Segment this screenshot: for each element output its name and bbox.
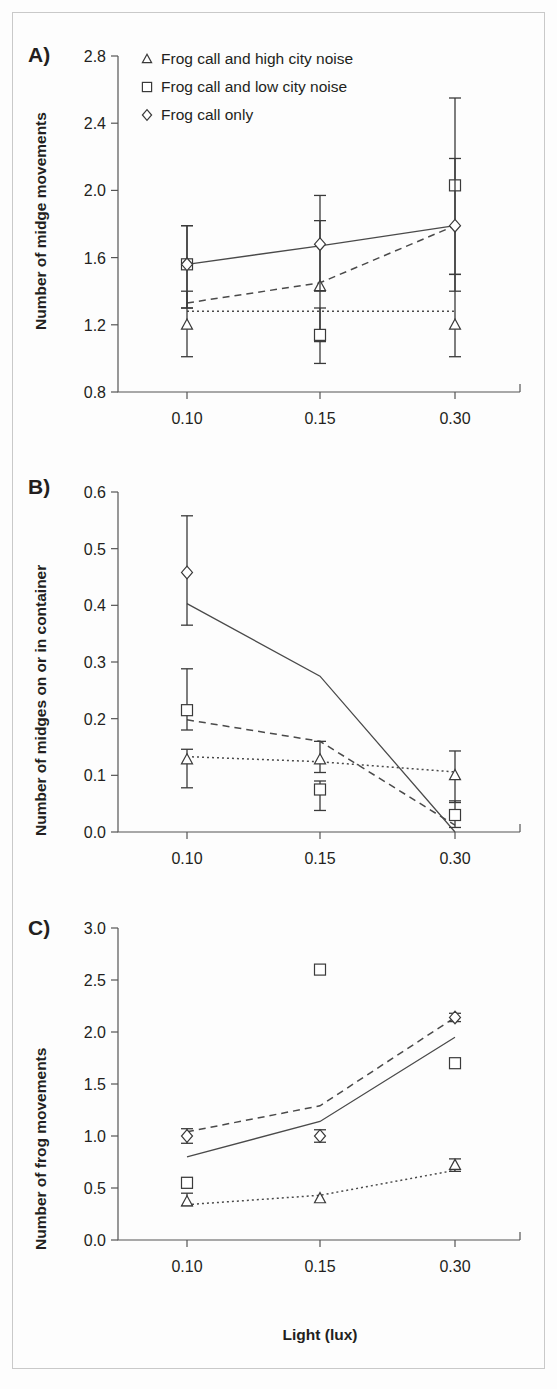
ytick-label: 0.2: [84, 711, 106, 728]
data-marker-triangle: [450, 770, 461, 780]
ytick-label: 0.6: [84, 484, 106, 501]
data-marker-square: [450, 1058, 461, 1069]
ytick-label: 0.4: [84, 597, 106, 614]
data-marker-triangle: [450, 1159, 461, 1169]
xtick-label: 0.15: [304, 410, 335, 427]
legend-marker-triangle: [142, 54, 151, 62]
xtick-label: 0.30: [439, 1258, 470, 1275]
panel-c-letter: C): [28, 916, 50, 939]
panel-c-axes: [111, 928, 520, 1247]
panel-a-letter: A): [28, 43, 50, 66]
xtick-label: 0.10: [171, 410, 202, 427]
panel-b-data-points: [181, 516, 461, 828]
data-marker-square: [182, 1177, 193, 1188]
data-marker-square: [315, 329, 326, 340]
ytick-label: 0.5: [84, 541, 106, 558]
data-marker-triangle: [182, 319, 193, 329]
ytick-label: 1.5: [84, 1076, 106, 1093]
panel-a-ylabel: Number of midge movements: [32, 112, 49, 330]
data-marker-triangle: [450, 319, 461, 329]
panel-c-data-points: [181, 964, 461, 1206]
ytick-label: 2.4: [84, 115, 106, 132]
xtick-label: 0.30: [439, 850, 470, 867]
trend-line: [187, 1017, 455, 1131]
data-marker-square: [315, 784, 326, 795]
panel-c-xtick-labels: 0.100.150.30: [171, 1258, 470, 1275]
data-marker-triangle: [315, 1193, 326, 1203]
data-marker-triangle: [182, 1196, 193, 1206]
panel-c: C) Number of frog movements Light (lux) …: [0, 880, 557, 1389]
xtick-label: 0.30: [439, 410, 470, 427]
data-marker-triangle: [182, 754, 193, 764]
data-marker-diamond: [315, 238, 326, 251]
panel-c-xlabel: Light (lux): [283, 1326, 358, 1343]
ytick-label: 2.8: [84, 48, 106, 65]
panel-a-xtick-labels: 0.100.150.30: [171, 410, 470, 427]
ytick-label: 3.0: [84, 920, 106, 937]
ytick-label: 2.0: [84, 1024, 106, 1041]
legend-label: Frog call and high city noise: [161, 50, 353, 67]
ytick-label: 0.0: [84, 1232, 106, 1249]
ytick-label: 0.3: [84, 654, 106, 671]
data-marker-square: [315, 964, 326, 975]
ytick-label: 0.0: [84, 824, 106, 841]
ytick-label: 0.1: [84, 767, 106, 784]
legend-label: Frog call only: [161, 106, 253, 123]
data-marker-triangle: [315, 754, 326, 764]
figure-root: A) Number of midge movements 0.81.21.62.…: [0, 0, 557, 1389]
panel-a: A) Number of midge movements 0.81.21.62.…: [0, 0, 557, 450]
panel-a-ytick-labels: 0.81.21.62.02.42.8: [84, 48, 106, 401]
data-marker-square: [182, 705, 193, 716]
data-marker-diamond: [450, 219, 461, 232]
ytick-label: 2.0: [84, 182, 106, 199]
panel-c-ytick-labels: 0.00.51.01.52.02.53.0: [84, 920, 106, 1249]
ytick-label: 1.0: [84, 1128, 106, 1145]
legend-label: Frog call and low city noise: [161, 78, 347, 95]
panel-c-trendlines: [187, 1017, 455, 1204]
ytick-label: 1.6: [84, 250, 106, 267]
xtick-label: 0.10: [171, 850, 202, 867]
legend-marker-square: [142, 82, 151, 91]
legend-marker-diamond: [142, 110, 151, 121]
ytick-label: 1.2: [84, 317, 106, 334]
panel-b-trendlines: [187, 604, 455, 832]
xtick-label: 0.10: [171, 1258, 202, 1275]
panel-b-ytick-labels: 0.00.10.20.30.40.50.6: [84, 484, 106, 841]
data-marker-diamond: [315, 1130, 326, 1143]
data-marker-square: [450, 810, 461, 821]
panel-b: B) Number of midges on or in container 0…: [0, 432, 557, 887]
panel-b-xtick-labels: 0.100.150.30: [171, 850, 470, 867]
ytick-label: 0.5: [84, 1180, 106, 1197]
trend-line: [187, 604, 455, 832]
data-marker-diamond: [182, 566, 193, 579]
error-bar: [449, 158, 461, 274]
xtick-label: 0.15: [304, 1258, 335, 1275]
xtick-label: 0.15: [304, 850, 335, 867]
panel-a-legend: Frog call and high city noiseFrog call a…: [142, 50, 353, 123]
ytick-label: 0.8: [84, 384, 106, 401]
panel-b-letter: B): [28, 475, 50, 498]
panel-c-ylabel: Number of frog movements: [32, 1048, 49, 1250]
panel-b-ylabel: Number of midges on or in container: [32, 565, 49, 836]
ytick-label: 2.5: [84, 972, 106, 989]
